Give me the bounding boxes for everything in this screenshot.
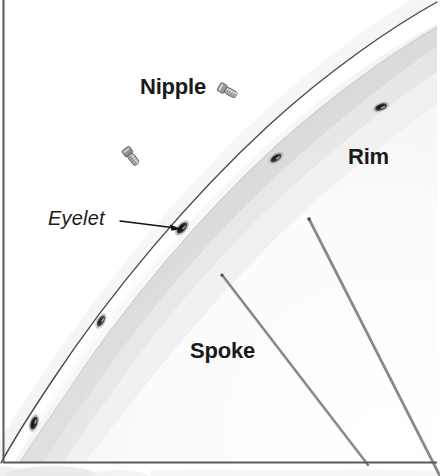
label-eyelet: Eyelet	[48, 208, 105, 228]
wheel-rim-diagram: Nipple Rim Spoke Eyelet	[0, 0, 440, 476]
label-spoke: Spoke	[190, 340, 255, 362]
page-bleed	[0, 463, 440, 476]
label-rim: Rim	[348, 146, 389, 168]
diagram-artwork	[0, 0, 440, 476]
label-nipple: Nipple	[140, 76, 206, 98]
